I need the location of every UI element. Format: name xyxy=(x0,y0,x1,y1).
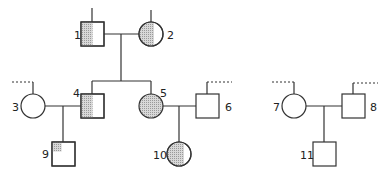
individual-1: 1 xyxy=(74,8,104,46)
label-2: 2 xyxy=(167,29,174,42)
mating-3-4 xyxy=(45,106,81,142)
label-3: 3 xyxy=(12,101,19,114)
label-4: 4 xyxy=(73,87,80,100)
label-5: 5 xyxy=(160,87,167,100)
label-8: 8 xyxy=(370,101,377,114)
label-1: 1 xyxy=(74,29,81,42)
pedigree-diagram: 1 2 3 4 5 6 xyxy=(0,0,386,177)
individual-3: 3 xyxy=(12,82,45,118)
individual-6: 6 xyxy=(196,82,232,118)
individual-9: 9 xyxy=(42,142,75,166)
label-6: 6 xyxy=(225,101,232,114)
individual-5: 5 xyxy=(139,87,167,118)
individual-7: 7 xyxy=(272,82,306,118)
individual-8: 8 xyxy=(342,83,378,118)
individual-2: 2 xyxy=(139,10,174,46)
mating-5-6 xyxy=(163,106,196,142)
individual-10: 10 xyxy=(153,142,191,166)
label-11: 11 xyxy=(300,149,314,162)
label-9: 9 xyxy=(42,148,49,161)
individual-11: 11 xyxy=(300,142,336,166)
individual-4: 4 xyxy=(73,87,104,118)
label-10: 10 xyxy=(153,149,167,162)
label-7: 7 xyxy=(273,101,280,114)
mating-7-8 xyxy=(306,106,342,142)
